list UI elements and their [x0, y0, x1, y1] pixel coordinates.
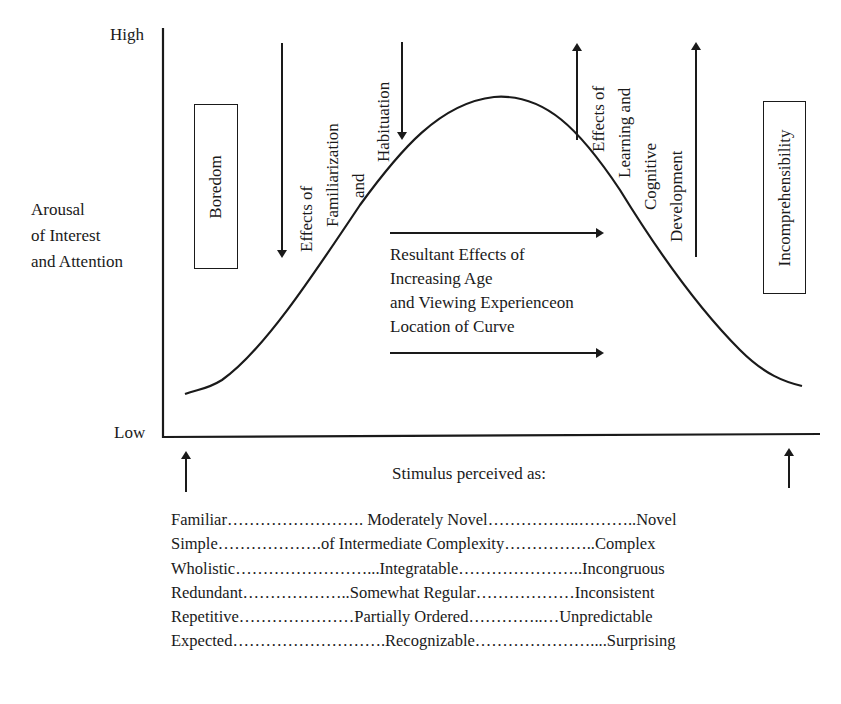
- resultant-line-2: Increasing Age: [390, 267, 574, 291]
- stimulus-row-expected: Expected……………………….Recognizable…………………...…: [171, 629, 811, 653]
- learning-line-3: Cognitive: [640, 143, 661, 210]
- stimulus-row-redundant: Redundant………………..Somewhat Regular………………I…: [171, 581, 811, 605]
- stimulus-continuum-list: Familiar……………………. Moderately Novel…………….…: [171, 508, 811, 654]
- resultant-effects-text: Resultant Effects of Increasing Age and …: [390, 243, 574, 339]
- y-axis-high-label: High: [110, 24, 144, 46]
- y-axis-title-line-1: Arousal: [31, 197, 123, 223]
- incomprehensibility-label: Incomprehensibility: [775, 129, 795, 266]
- learning-line-2: Learning and: [614, 88, 635, 178]
- x-axis-title: Stimulus perceived as:: [392, 463, 546, 485]
- stimulus-row-wholistic: Wholistic……………………...Integratable………………….…: [171, 557, 811, 581]
- learning-line-4: Development: [666, 150, 687, 242]
- resultant-line-4: Location of Curve: [390, 315, 574, 339]
- familiarization-line-1: Effects of: [296, 186, 317, 252]
- familiarization-line-3: and: [348, 173, 369, 198]
- learning-line-1: Effects of: [588, 86, 609, 152]
- stimulus-row-repetitive: Repetitive…………………Partially Ordered…………..…: [171, 605, 811, 629]
- incomprehensibility-box: Incomprehensibility: [763, 101, 806, 294]
- familiarization-line-4: Habituation: [373, 82, 394, 162]
- stimulus-row-simple: Simple……………….of Intermediate Complexity……: [171, 532, 811, 556]
- resultant-line-3: and Viewing Experienceon: [390, 291, 574, 315]
- resultant-line-1: Resultant Effects of: [390, 243, 574, 267]
- y-axis-title: Arousal of Interest and Attention: [31, 197, 123, 275]
- x-axis-line: [162, 434, 820, 437]
- familiarization-line-2: Familiarization: [322, 123, 343, 227]
- y-axis-title-line-2: of Interest: [31, 223, 123, 249]
- y-axis-title-line-3: and Attention: [31, 249, 123, 275]
- stimulus-row-familiar: Familiar……………………. Moderately Novel…………….…: [171, 508, 811, 532]
- boredom-box: Boredom: [194, 104, 238, 269]
- y-axis-low-label: Low: [114, 422, 145, 444]
- boredom-label: Boredom: [206, 155, 226, 218]
